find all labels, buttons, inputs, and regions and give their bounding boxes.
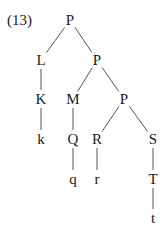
tree-node-Q: Q bbox=[68, 132, 79, 147]
tree-node-S: S bbox=[149, 132, 157, 147]
tree-node-r: r bbox=[95, 172, 100, 187]
tree-node-P: P bbox=[93, 53, 101, 68]
tree-node-L: L bbox=[36, 53, 45, 68]
tree-node-k: k bbox=[37, 132, 45, 147]
tree-edge bbox=[102, 106, 119, 131]
tree-edge bbox=[78, 68, 93, 92]
tree-edge bbox=[75, 27, 92, 52]
tree-edge bbox=[46, 27, 64, 52]
tree-node-t: t bbox=[151, 211, 155, 226]
tree-edge bbox=[129, 106, 147, 131]
tree-edges bbox=[0, 0, 167, 232]
tree-node-P: P bbox=[66, 13, 74, 28]
tree-node-K: K bbox=[36, 92, 47, 107]
tree-node-T: T bbox=[148, 172, 157, 187]
tree-node-M: M bbox=[66, 92, 79, 107]
tree-edge bbox=[102, 67, 119, 91]
tree-node-q: q bbox=[69, 172, 77, 187]
tree-node-P: P bbox=[120, 92, 128, 107]
tree-node-R: R bbox=[92, 132, 102, 147]
